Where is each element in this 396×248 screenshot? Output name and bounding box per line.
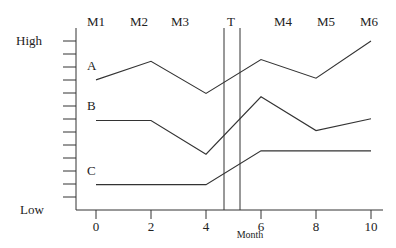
x-tick-label: 0 <box>93 219 100 234</box>
x-tick-label: 8 <box>313 219 320 234</box>
top-label-m3: M3 <box>171 14 189 29</box>
y-axis <box>63 28 76 210</box>
series-label-c: C <box>87 163 96 178</box>
top-label-m1: M1 <box>87 14 105 29</box>
line-chart: 0246810 ABC M1M2M3TM4M5M6 High Low Month <box>0 0 396 248</box>
top-label-m2: M2 <box>130 14 148 29</box>
x-tick-label: 2 <box>148 219 155 234</box>
y-axis-low-label: Low <box>20 202 44 217</box>
top-label-m4: M4 <box>274 14 293 29</box>
series-line-a <box>96 41 371 93</box>
top-label-m6: M6 <box>360 14 379 29</box>
top-label-t: T <box>227 14 235 29</box>
x-axis: 0246810 <box>76 210 383 234</box>
y-axis-high-label: High <box>16 33 43 48</box>
t-marker-band <box>224 28 240 210</box>
x-tick-label: 4 <box>203 219 210 234</box>
month-header-labels: M1M2M3TM4M5M6 <box>87 14 379 29</box>
series-lines: ABC <box>87 41 371 185</box>
series-label-b: B <box>87 98 96 113</box>
series-label-a: A <box>87 58 97 73</box>
series-line-c <box>96 151 371 185</box>
x-tick-label: 10 <box>365 219 378 234</box>
top-label-m5: M5 <box>317 14 335 29</box>
series-line-b <box>96 97 371 154</box>
x-axis-title: Month <box>237 229 264 240</box>
